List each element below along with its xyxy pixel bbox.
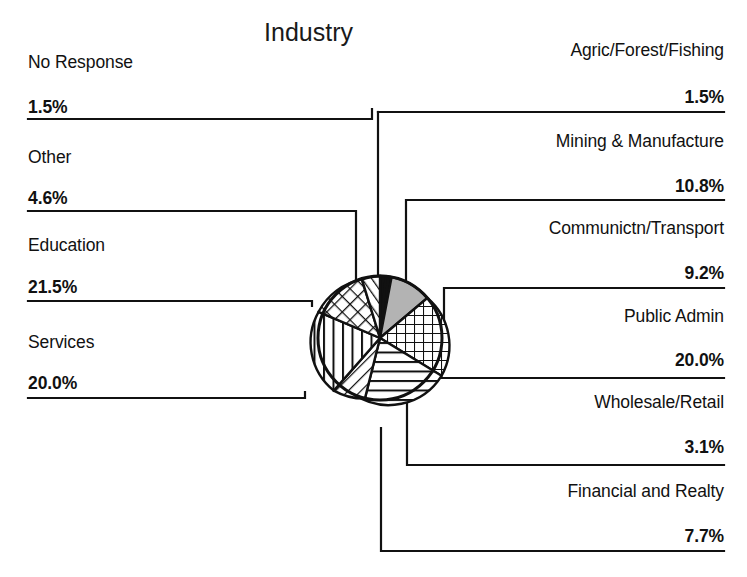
leader-wholesale-retail — [407, 400, 724, 465]
leader-services — [28, 392, 305, 398]
leader-other — [28, 211, 356, 292]
leader-mining-manufacture — [406, 200, 724, 296]
leader-education — [28, 301, 312, 306]
leader-financial-realty — [381, 428, 724, 551]
chart-canvas: Industry No Response 1.5% Other 4.6% Edu… — [0, 0, 747, 577]
pie-chart-graphic — [0, 0, 747, 577]
leader-communictn-transport — [444, 288, 724, 330]
pie-slices-group — [311, 276, 450, 405]
leader-no-response — [28, 109, 372, 119]
